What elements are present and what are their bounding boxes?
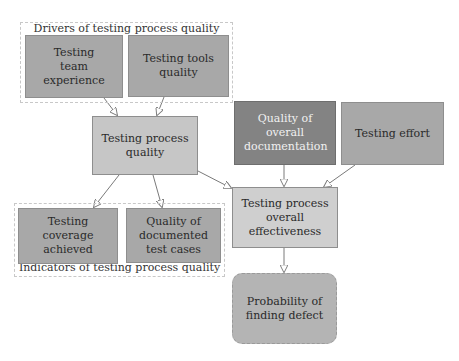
node-documentation-quality[interactable]: Quality of overall documentation [234, 101, 336, 165]
node-label: Testing effort [355, 127, 430, 141]
edge-effort-to-effectiveness [324, 165, 355, 187]
node-label: Testing process quality [97, 132, 193, 160]
node-label: Quality of overall documentation [244, 112, 326, 154]
node-documented-test-cases[interactable]: Quality of documented test cases [126, 208, 221, 263]
edge-process-to-effectiveness [198, 171, 231, 188]
node-process-quality[interactable]: Testing process quality [92, 116, 198, 175]
node-testing-effort[interactable]: Testing effort [341, 102, 444, 165]
node-label: Testing team experience [39, 46, 109, 88]
node-label: Testing process overall effectiveness [237, 197, 333, 239]
node-label: Testing coverage achieved [28, 215, 108, 257]
node-overall-effectiveness[interactable]: Testing process overall effectiveness [232, 187, 338, 248]
node-coverage-achieved[interactable]: Testing coverage achieved [18, 208, 118, 264]
node-probability-defect[interactable]: Probability of finding defect [232, 273, 337, 344]
drivers-group-label: Drivers of testing process quality [21, 22, 232, 35]
node-label: Probability of finding defect [237, 295, 332, 323]
node-team-experience[interactable]: Testing team experience [25, 35, 123, 98]
node-tools-quality[interactable]: Testing tools quality [128, 35, 229, 97]
node-label: Testing tools quality [133, 52, 224, 80]
node-label: Quality of documented test cases [135, 215, 213, 257]
